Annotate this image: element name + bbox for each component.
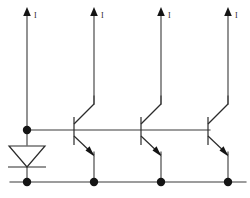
current-source-out3-label: I — [235, 11, 238, 20]
q2-collector-lead — [141, 104, 161, 124]
reference-diode — [8, 130, 46, 182]
current-source-out3-arrow-icon — [224, 7, 232, 16]
transistor-q3 — [208, 96, 229, 182]
q3-collector-lead — [208, 104, 228, 124]
q1-collector-lead — [74, 104, 94, 124]
current-source-out3: I — [224, 7, 238, 104]
current-source-ref-label: I — [34, 11, 37, 20]
schematic-canvas: I I I I — [0, 0, 250, 198]
node-gnd-ref — [23, 178, 31, 186]
node-gnd-q1 — [90, 178, 98, 186]
current-source-out2-arrow-icon — [157, 7, 165, 16]
circuit-diagram: I I I I — [0, 0, 250, 198]
diode-triangle-icon — [9, 146, 45, 167]
current-source-out1-label: I — [101, 11, 104, 20]
current-source-out1: I — [90, 7, 104, 104]
transistor-q1 — [74, 96, 95, 182]
transistor-q2 — [141, 96, 162, 182]
current-source-ref-arrow-icon — [23, 7, 31, 16]
current-source-out2-label: I — [168, 11, 171, 20]
node-gnd-q3 — [224, 178, 232, 186]
current-source-out1-arrow-icon — [90, 7, 98, 16]
current-source-out2: I — [157, 7, 171, 104]
node-base-rail — [23, 126, 31, 134]
node-gnd-q2 — [157, 178, 165, 186]
current-source-ref: I — [23, 7, 37, 130]
